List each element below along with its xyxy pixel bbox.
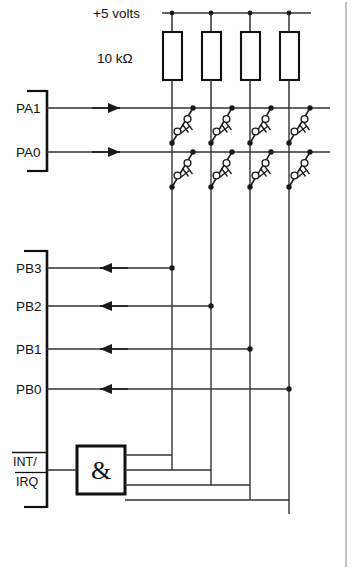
- and-gate[interactable]: &: [77, 446, 125, 494]
- pullup-resistor-group: [163, 11, 299, 108]
- pullup-resistor-4: [280, 11, 299, 108]
- pullup-resistor-2: [202, 11, 221, 108]
- and-gate-symbol: &: [91, 456, 111, 485]
- switch-c1-r2[interactable]: [169, 149, 195, 189]
- schematic-svg: +5 volts 10 kΩ: [0, 0, 355, 569]
- switch-c3-r1[interactable]: [247, 105, 273, 145]
- switch-c2-r2[interactable]: [208, 149, 234, 189]
- port-b-block: [24, 250, 47, 508]
- supply-label: +5 volts: [93, 6, 140, 21]
- pb0-row: [47, 386, 292, 391]
- int-irq-label-top: INT/: [13, 455, 37, 469]
- gate-input-wires: [125, 455, 289, 500]
- switch-c3-r2[interactable]: [247, 149, 273, 189]
- pullup-resistor-1: [163, 11, 182, 108]
- int-irq-label-bottom: IRQ: [16, 475, 39, 489]
- pin-label-pb1: PB1: [16, 342, 42, 357]
- switch-c1-r1[interactable]: [169, 105, 195, 145]
- pin-label-pb0: PB0: [16, 382, 42, 397]
- switch-c4-r1[interactable]: [286, 105, 312, 145]
- switch-c4-r2[interactable]: [286, 149, 312, 189]
- pb2-row: [47, 303, 214, 308]
- pin-label-pa1: PA1: [16, 101, 41, 116]
- pb3-row: [47, 265, 175, 270]
- pin-label-pb2: PB2: [16, 299, 42, 314]
- pin-label-pa0: PA0: [16, 145, 41, 160]
- pb1-row: [47, 346, 253, 351]
- switch-matrix: [169, 105, 312, 189]
- switch-c2-r1[interactable]: [208, 105, 234, 145]
- circuit-diagram-canvas: +5 volts 10 kΩ: [0, 0, 355, 569]
- resistor-value-label: 10 kΩ: [97, 51, 133, 66]
- pin-label-pb3: PB3: [16, 261, 42, 276]
- pullup-resistor-3: [241, 11, 260, 108]
- column-conductors: [172, 108, 289, 514]
